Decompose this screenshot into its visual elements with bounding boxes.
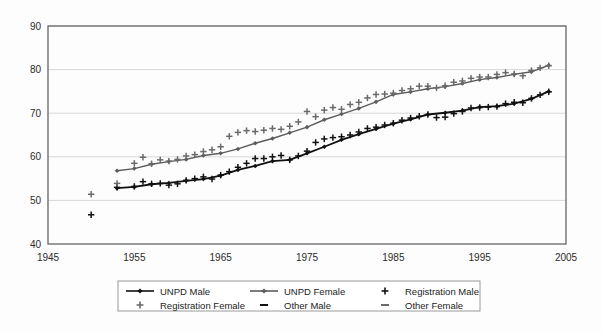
legend-label: Registration Female: [160, 300, 245, 311]
legend-label: Registration Male: [405, 286, 479, 297]
legend-label: UNPD Female: [284, 286, 345, 297]
legend-label: Other Male: [284, 300, 331, 311]
y-tick-label: 50: [30, 195, 42, 206]
x-tick-label: 1995: [469, 252, 492, 263]
legend-label: Other Female: [405, 300, 463, 311]
y-tick-label: 40: [30, 239, 42, 250]
x-tick-label: 1975: [296, 252, 319, 263]
y-tick-label: 60: [30, 151, 42, 162]
x-tick-label: 1985: [382, 252, 405, 263]
y-tick-label: 90: [30, 21, 42, 32]
y-tick-label: 80: [30, 64, 42, 75]
chart-legend: UNPD MaleUNPD FemaleRegistration MaleReg…: [118, 281, 480, 311]
x-tick-label: 1965: [210, 252, 233, 263]
x-tick-label: 1945: [37, 252, 60, 263]
chart-canvas: 405060708090 194519551965197519851995200…: [0, 0, 602, 333]
life-expectancy-chart: 405060708090 194519551965197519851995200…: [0, 0, 602, 333]
x-tick-label: 1955: [123, 252, 146, 263]
legend-label: UNPD Male: [160, 286, 210, 297]
y-tick-label: 70: [30, 108, 42, 119]
x-tick-label: 2005: [555, 252, 578, 263]
